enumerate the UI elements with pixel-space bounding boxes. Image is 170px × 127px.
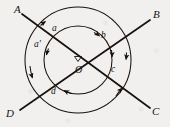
arrow-inner-right-icon bbox=[112, 50, 113, 57]
arc-label-b: b bbox=[101, 31, 106, 41]
point-label-d: D bbox=[6, 108, 14, 119]
center-mark-icon bbox=[75, 57, 82, 62]
outer-circle bbox=[25, 7, 131, 113]
arc-label-a-prime: a' bbox=[34, 40, 41, 50]
arc-label-a: a bbox=[52, 24, 57, 34]
arrow-inner-upper-left-icon bbox=[47, 49, 49, 56]
point-label-a: A bbox=[14, 4, 21, 15]
center-label-o: O bbox=[75, 65, 82, 75]
arrow-outer-right-icon bbox=[126, 53, 127, 60]
arc-label-c: c bbox=[111, 65, 115, 75]
point-label-b: B bbox=[153, 9, 160, 20]
point-label-c: C bbox=[152, 106, 159, 117]
diagram-canvas bbox=[0, 0, 170, 127]
geometry-figure: A B C D O a a' b c d bbox=[0, 0, 170, 127]
arrow-outer-left-icon bbox=[30, 66, 33, 78]
arrow-outer-lower-right-icon bbox=[116, 88, 122, 96]
arc-label-d: d bbox=[51, 87, 56, 97]
